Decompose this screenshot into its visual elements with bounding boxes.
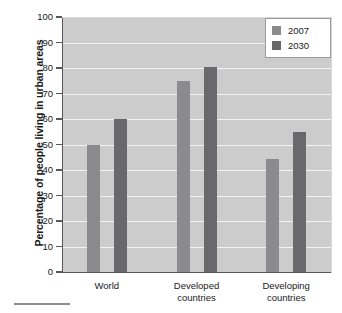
gridline — [63, 247, 332, 248]
gridline — [63, 68, 332, 69]
y-axis-tick-label: 40 — [13, 164, 53, 175]
y-axis-tick-label: 10 — [13, 241, 53, 252]
y-axis-tick — [56, 195, 62, 197]
bar-developed-countries-2007 — [177, 81, 190, 272]
legend-item-2030: 2030 — [272, 40, 309, 51]
y-axis-tick-label: 20 — [13, 215, 53, 226]
legend-swatch-icon-2030 — [272, 41, 281, 50]
y-axis-tick — [56, 42, 62, 44]
y-axis-tick-label: 90 — [13, 37, 53, 48]
gridline — [63, 196, 332, 197]
y-axis-tick — [56, 169, 62, 171]
legend-label-2007: 2007 — [288, 25, 309, 36]
legend-label-2030: 2030 — [288, 40, 309, 51]
y-axis-tick — [56, 246, 62, 248]
bar-world-2007 — [87, 145, 100, 273]
bar-developed-countries-2030 — [204, 67, 217, 272]
legend-item-2007: 2007 — [272, 25, 309, 36]
y-axis-tick-label: 0 — [13, 266, 53, 277]
y-axis-tick-label: 70 — [13, 88, 53, 99]
y-axis-tick — [56, 271, 62, 273]
gridline — [63, 221, 332, 222]
y-axis-tick — [56, 93, 62, 95]
y-axis-tick-label: 80 — [13, 62, 53, 73]
y-axis-tick — [56, 220, 62, 222]
page-rule-artifact — [14, 303, 70, 305]
y-axis-tick-label: 60 — [13, 113, 53, 124]
y-axis-tick — [56, 118, 62, 120]
gridline — [63, 94, 332, 95]
gridline — [63, 119, 332, 120]
x-axis-label-2: Developingcountries — [226, 280, 342, 303]
legend-swatch-icon-2007 — [272, 26, 281, 35]
y-axis-tick-label: 100 — [13, 11, 53, 22]
bar-developing-countries-2030 — [293, 132, 306, 272]
y-axis-tick — [56, 16, 62, 18]
bar-chart-figure: Percentage of people living in urban are… — [0, 0, 342, 313]
legend: 2007 2030 — [265, 18, 331, 58]
y-axis-tick-label: 30 — [13, 190, 53, 201]
y-axis-tick-label: 50 — [13, 139, 53, 150]
gridline — [63, 145, 332, 146]
gridline — [63, 170, 332, 171]
y-axis-tick — [56, 67, 62, 69]
bar-world-2030 — [114, 119, 127, 272]
y-axis-tick — [56, 144, 62, 146]
bar-developing-countries-2007 — [266, 159, 279, 272]
